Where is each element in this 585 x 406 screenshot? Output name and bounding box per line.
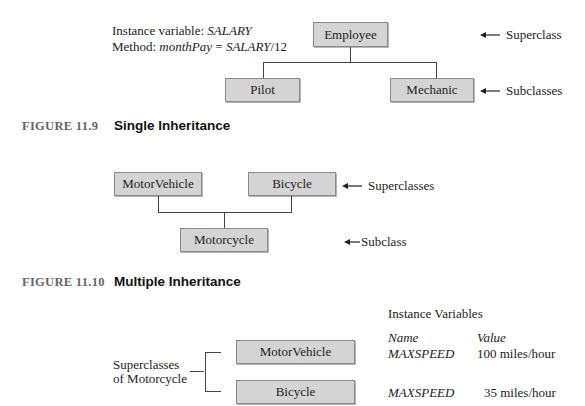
class-box-bicycle: Bicycle [248,172,336,196]
bracket-line [205,352,206,392]
column-header-name: Name [388,330,418,346]
figure-title: Single Inheritance [114,118,230,133]
figure-number: FIGURE 11.10 [22,275,105,290]
class-box-employee: Employee [313,22,388,47]
annotation-equals: = [212,39,226,54]
label-text: Superclass [506,27,562,43]
connector-line [263,62,437,63]
annotation-expression: SALARY [226,39,271,54]
label-text: Subclasses [506,83,562,99]
column-header-value: Value [477,330,506,346]
annotation-label: Method: [112,39,159,54]
connector-line [158,196,159,213]
connector-line [291,196,292,213]
class-box-motorcycle: Motorcycle [180,228,268,252]
bracket-label: of Motorcycle [113,371,173,387]
subclass-label: Subclass [344,234,407,250]
bracket-label-line: of Motorcycle [113,371,173,387]
figure-number: FIGURE 11.9 [22,119,98,134]
class-box-mechanic: Mechanic [390,78,474,102]
connector-line [158,212,292,213]
subclasses-label: Subclasses [480,83,562,99]
instance-variable-annotation: Instance variable: SALARY [112,23,252,39]
row-value: 35 miles/hour [484,385,556,401]
bracket-line [205,352,221,353]
class-name: MotorVehicle [122,176,193,192]
class-box-bicycle: Bicycle [236,380,355,404]
instance-variables-title: Instance Variables [388,306,483,322]
connector-line [436,62,437,78]
class-name: Bicycle [276,384,316,400]
annotation-method: monthPay [159,39,212,54]
connector-line [224,212,225,228]
row-name: MAXSPEED [388,385,454,401]
class-name: Mechanic [406,82,457,98]
row-value: 100 miles/hour [477,346,555,362]
class-name: MotorVehicle [260,344,331,360]
bracket-line [190,371,204,372]
label-text: Subclass [361,234,407,250]
connector-line [350,47,351,63]
method-annotation: Method: monthPay = SALARY/12 [112,39,287,55]
label-text: Superclasses [368,178,434,194]
bracket-line [205,391,221,392]
left-arrow-icon [344,238,360,246]
class-name: Employee [324,27,377,43]
class-box-pilot: Pilot [225,78,300,102]
left-arrow-icon [480,87,500,95]
class-box-motorvehicle: MotorVehicle [236,340,355,364]
annotation-suffix: /12 [270,39,287,54]
connector-line [263,62,264,78]
figure-title: Multiple Inheritance [114,274,241,289]
class-name: Bicycle [272,176,312,192]
class-name: Pilot [250,82,275,98]
superclass-label: Superclass [480,27,562,43]
class-name: Motorcycle [194,232,254,248]
class-box-motorvehicle: MotorVehicle [114,172,202,196]
annotation-label: Instance variable: [112,23,207,38]
left-arrow-icon [480,31,500,39]
annotation-variable: SALARY [207,23,252,38]
row-name: MAXSPEED [388,346,454,362]
left-arrow-icon [342,182,362,190]
superclasses-label: Superclasses [342,178,434,194]
